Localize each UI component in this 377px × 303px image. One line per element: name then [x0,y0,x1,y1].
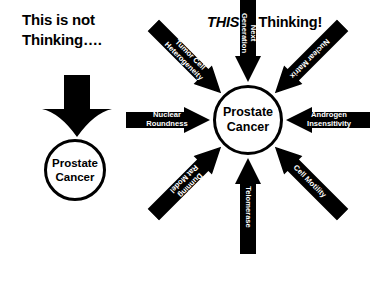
inward-arrow-icon [266,138,352,224]
inward-arrow-icon [235,158,261,254]
left-circle-line-2: Cancer [56,170,95,184]
hub-line-2: Cancer [227,120,269,135]
thick-down-arrow-icon [42,75,112,137]
not-thinking-panel: This is not Thinking…. Prostate Cancer [0,0,160,303]
left-heading-line-1: This is not [22,10,152,30]
left-heading-line-2: Thinking…. [22,30,152,50]
inward-arrow-icon [144,138,230,224]
thinking-panel: THIS is Thinking! Tumor Cell Heterogenei… [152,0,377,303]
hub-line-1: Prostate [223,105,273,120]
left-panel-heading: This is not Thinking…. [22,10,152,51]
inward-arrow-icon [286,107,370,133]
hub-prostate-cancer-circle: Prostate Cancer [213,85,283,155]
left-prostate-cancer-circle: Prostate Cancer [44,139,106,201]
inward-arrow-icon [126,107,210,133]
left-circle-line-1: Prostate [52,156,98,170]
inward-arrow-icon [235,0,261,82]
